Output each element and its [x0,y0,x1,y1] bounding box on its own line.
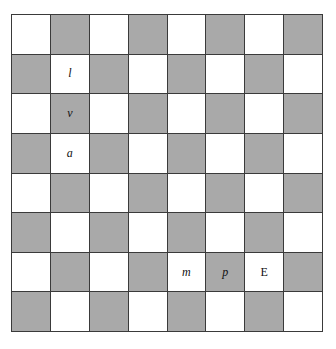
cell-label: E [261,265,268,280]
board-cell-r1-c5 [206,55,244,94]
board-cell-r7-c1 [51,292,89,331]
board-cell-r6-c7 [284,253,322,292]
board-cell-r3-c4 [168,134,206,173]
board-cell-r4-c5 [206,174,244,213]
board-cell-r0-c3 [129,15,167,54]
board-cell-r0-c5 [206,15,244,54]
board-cell-r6-c6: E [245,253,283,292]
board-cell-r2-c4 [168,94,206,133]
board-cell-r2-c3 [129,94,167,133]
board-cell-r5-c2 [90,213,128,252]
board-cell-r1-c4 [168,55,206,94]
board-cell-r5-c6 [245,213,283,252]
board-cell-r3-c2 [90,134,128,173]
board-cell-r7-c7 [284,292,322,331]
board-cell-r7-c5 [206,292,244,331]
board-cell-r2-c5 [206,94,244,133]
board-cell-r5-c5 [206,213,244,252]
board-cell-r6-c4: m [168,253,206,292]
cell-label: m [182,265,191,280]
board-cell-r4-c3 [129,174,167,213]
board-cell-r4-c4 [168,174,206,213]
board-cell-r2-c6 [245,94,283,133]
board-cell-r7-c0 [12,292,50,331]
board-cell-r5-c4 [168,213,206,252]
cell-label: v [67,106,72,121]
board-cell-r0-c2 [90,15,128,54]
board-cell-r5-c3 [129,213,167,252]
board-cell-r3-c1: a [51,134,89,173]
board-cell-r1-c2 [90,55,128,94]
board-cell-r2-c0 [12,94,50,133]
board-cell-r3-c3 [129,134,167,173]
board-cell-r4-c0 [12,174,50,213]
board-cell-r4-c1 [51,174,89,213]
board-cell-r0-c6 [245,15,283,54]
board-cell-r1-c6 [245,55,283,94]
board-cell-r6-c5: p [206,253,244,292]
board-cell-r1-c0 [12,55,50,94]
board-cell-r0-c1 [51,15,89,54]
board-cell-r6-c2 [90,253,128,292]
board-cell-r3-c0 [12,134,50,173]
board-cell-r2-c1: v [51,94,89,133]
board-cell-r4-c2 [90,174,128,213]
board-cell-r6-c0 [12,253,50,292]
board-cell-r6-c1 [51,253,89,292]
board-cell-r1-c7 [284,55,322,94]
board-cell-r7-c6 [245,292,283,331]
board-cell-r2-c7 [284,94,322,133]
board-cell-r6-c3 [129,253,167,292]
board-cell-r5-c0 [12,213,50,252]
board-cell-r3-c5 [206,134,244,173]
board-cell-r4-c6 [245,174,283,213]
checkerboard: lvampE [11,14,323,332]
cell-label: p [222,265,228,280]
board-cell-r0-c0 [12,15,50,54]
board-cell-r1-c1: l [51,55,89,94]
board-cell-r3-c7 [284,134,322,173]
board-cell-r7-c2 [90,292,128,331]
board-cell-r1-c3 [129,55,167,94]
cell-label: a [67,146,73,161]
board-cell-r7-c3 [129,292,167,331]
board-cell-r4-c7 [284,174,322,213]
board-cell-r5-c1 [51,213,89,252]
board-cell-r5-c7 [284,213,322,252]
cell-label: l [68,66,71,81]
board-cell-r3-c6 [245,134,283,173]
board-cell-r2-c2 [90,94,128,133]
board-cell-r0-c4 [168,15,206,54]
board-cell-r7-c4 [168,292,206,331]
board-cell-r0-c7 [284,15,322,54]
